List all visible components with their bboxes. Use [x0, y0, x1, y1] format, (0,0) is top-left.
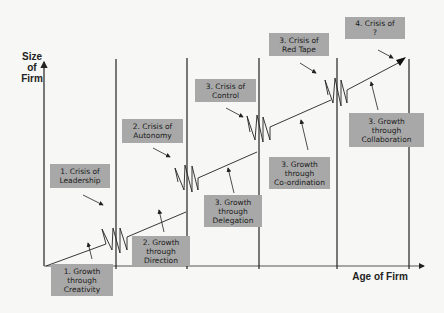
crisis-box-autonomy: 2. Crisis of Autonomy [122, 119, 183, 143]
y-axis-label: Size of Firm [14, 51, 50, 84]
growth-box-direction: 2. Growth through Direction [132, 236, 190, 266]
growth-box-collaboration: 3. Growth through Collaboration [349, 113, 424, 147]
crisis-box-control: 3. Crisis of Control [195, 79, 256, 102]
crisis-box-red-tape: 3. Crisis of Red Tape [269, 33, 329, 56]
growth-box-delegation: 3. Growth through Delegation [204, 195, 262, 227]
growth-box-creativity: 1. Growth through Creativity [51, 264, 113, 296]
crisis-box-leadership: 1. Crisis of Leadership [50, 164, 110, 188]
crisis-box-unknown: 4. Crisis of ? [345, 17, 405, 39]
growth-box-coordination: 3. Growth through Co-ordination [269, 157, 330, 189]
x-axis-label: Age of Firm [340, 271, 420, 282]
curve-end-arrow [396, 57, 406, 66]
